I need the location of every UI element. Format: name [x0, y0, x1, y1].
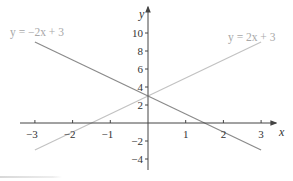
x-tick-label: −3: [26, 128, 38, 140]
y-tick-label: 2: [138, 99, 144, 111]
label-2x-plus-3: y = 2x + 3: [228, 31, 276, 44]
bottom-divider: [0, 176, 62, 178]
y-tick-label: 10: [132, 27, 144, 39]
x-axis-label: x: [278, 125, 285, 139]
line-chart: −3−2−1123 108642−2−4 x y y = −2x + 3 y =…: [0, 0, 293, 181]
y-tick-label: 6: [138, 63, 144, 75]
y-tick-label: 4: [138, 81, 144, 93]
y-tick-label: 8: [138, 45, 144, 57]
x-tick-label: 3: [258, 128, 264, 140]
y-tick-label: −2: [131, 135, 143, 147]
x-tick-label: 2: [221, 128, 227, 140]
x-tick-label: 1: [183, 128, 189, 140]
y-axis-label: y: [138, 7, 145, 21]
x-tick-label: −1: [101, 128, 113, 140]
y-tick-label: −4: [131, 153, 143, 165]
y-ticks: 108642−2−4: [131, 27, 148, 165]
label-neg-2x-plus-3: y = −2x + 3: [10, 26, 64, 39]
x-tick-label: −2: [64, 128, 76, 140]
